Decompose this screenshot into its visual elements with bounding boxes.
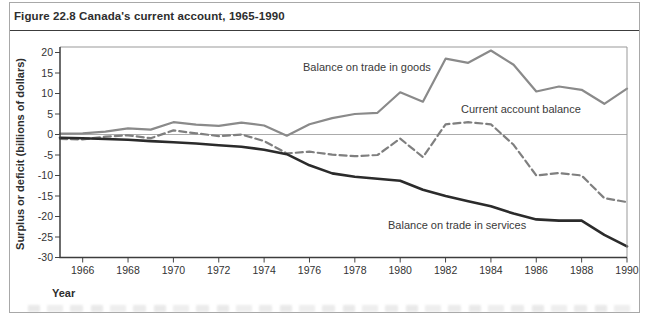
- y-tick-label: 15: [41, 67, 53, 79]
- x-tick-label: 1982: [434, 264, 458, 276]
- y-tick-label: -5: [44, 149, 53, 161]
- x-tick-label: 1968: [116, 264, 140, 276]
- services-line: [60, 138, 627, 247]
- x-tick-label: 1970: [162, 264, 186, 276]
- x-tick-label: 1990: [615, 264, 639, 276]
- x-tick-label: 1980: [389, 264, 413, 276]
- chart-canvas: 20151050-5-10-15-20-25-30196619681970197…: [0, 0, 649, 315]
- series-label-current-account: Current account balance: [461, 103, 581, 115]
- y-tick-label: -20: [38, 210, 53, 222]
- y-tick-label: 10: [41, 87, 53, 99]
- cropped-text-artifact: [28, 305, 630, 312]
- x-tick-label: 1976: [298, 264, 322, 276]
- y-axis-title: Surplus or deficit (billions of dollars): [14, 42, 28, 267]
- series-label-services: Balance on trade in services: [388, 219, 526, 231]
- screenshot-root: Figure 22.8 Canada's current account, 19…: [0, 0, 649, 315]
- x-tick-label: 1974: [252, 264, 276, 276]
- y-tick-label: -25: [38, 231, 53, 243]
- y-tick-label: 5: [47, 108, 53, 120]
- x-tick-label: 1978: [343, 264, 367, 276]
- x-tick-label: 1966: [71, 264, 95, 276]
- plot-frame-axes: [60, 47, 627, 258]
- y-tick-label: -10: [38, 169, 53, 181]
- y-tick-label: 20: [41, 46, 53, 58]
- y-tick-label: -30: [38, 251, 53, 263]
- y-tick-label: 0: [47, 128, 53, 140]
- plot-frame-light: [60, 47, 627, 258]
- x-axis-title: Year: [52, 287, 75, 299]
- x-tick-label: 1972: [207, 264, 231, 276]
- y-tick-label: -15: [38, 190, 53, 202]
- series-label-goods: Balance on trade in goods: [303, 61, 431, 73]
- x-tick-label: 1984: [479, 264, 503, 276]
- x-tick-label: 1988: [570, 264, 594, 276]
- x-tick-label: 1986: [525, 264, 549, 276]
